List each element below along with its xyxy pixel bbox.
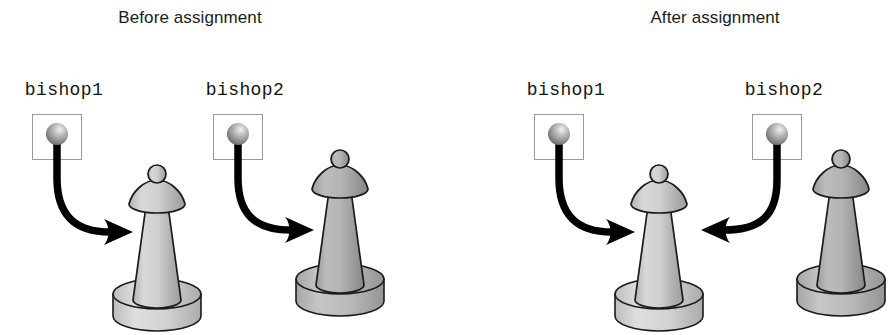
reference-box-bishop1-before <box>32 114 82 160</box>
panel-title-before: Before assignment <box>118 8 261 28</box>
figure-canvas: Before assignment After assignment bisho… <box>0 0 890 335</box>
reference-box-bishop1-after <box>534 114 584 160</box>
variable-label-bishop2-after: bishop2 <box>745 80 823 100</box>
chess-piece-b <box>296 150 384 316</box>
chess-piece-c <box>615 165 703 331</box>
chess-piece-a <box>113 165 201 331</box>
panel-title-after: After assignment <box>650 8 779 28</box>
reference-box-bishop2-before <box>213 114 263 160</box>
variable-label-bishop2-before: bishop2 <box>206 80 284 100</box>
reference-box-bishop2-after <box>752 114 802 160</box>
figure-artwork <box>0 0 890 335</box>
variable-label-bishop1-after: bishop1 <box>527 80 605 100</box>
variable-label-bishop1-before: bishop1 <box>25 80 103 100</box>
chess-piece-d <box>797 150 885 316</box>
